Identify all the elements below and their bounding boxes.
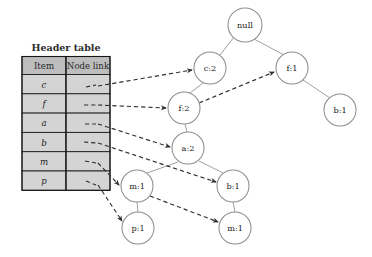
node-label-b1-middle: b:1 [226, 181, 239, 191]
tree-node-m1-right[interactable]: m:1 [219, 212, 251, 244]
node-label-f1: f:1 [287, 63, 298, 73]
header-col-item-label: Item [34, 61, 54, 71]
edge-f2-a2 [185, 124, 187, 132]
row-f-link-cell [66, 94, 110, 113]
node-label-b1-right: b:1 [333, 105, 346, 115]
tree-node-m1-left[interactable]: m:1 [121, 170, 153, 202]
header-table-title: Header table [31, 42, 100, 53]
row-b-item-label: b [41, 138, 47, 148]
fp-tree-diagram: Header table Item Node link c f [0, 0, 372, 257]
node-label-f2: f:2 [179, 103, 190, 113]
row-a-item-label: a [41, 118, 46, 128]
edge-c2-f2 [190, 83, 203, 93]
row-p-item-label: p [41, 176, 47, 186]
tree-node-null[interactable]: null [228, 8, 262, 42]
node-label-m1-right: m:1 [227, 223, 243, 233]
edge-root-c2 [220, 37, 234, 55]
fp-tree-figure: Header table Item Node link c f [0, 0, 372, 257]
node-link-m1l-to-m1r [150, 196, 218, 222]
header-col-node-link-label: Node link [67, 61, 110, 71]
tree-node-f1[interactable]: f:1 [276, 52, 308, 84]
node-link-c-to-c2 [98, 70, 192, 86]
tree-node-b1-right[interactable]: b:1 [324, 94, 356, 126]
node-label-m1-left: m:1 [129, 181, 145, 191]
edge-a2-b1m [199, 161, 223, 173]
tree-node-b1-middle[interactable]: b:1 [217, 170, 249, 202]
edge-f1-b1r [303, 80, 330, 98]
node-label-a2: a:2 [182, 143, 195, 153]
edge-b1m-m1r [233, 202, 235, 212]
node-label-null: null [237, 20, 253, 30]
node-label-p1: p:1 [131, 223, 144, 233]
row-c-link-cell [66, 75, 110, 94]
edge-root-f1 [254, 39, 284, 55]
row-a-link-cell [66, 113, 110, 132]
tree-node-p1[interactable]: p:1 [122, 212, 154, 244]
node-label-c2: c:2 [204, 63, 217, 73]
row-p-link-cell [66, 171, 110, 190]
tree-node-f2[interactable]: f:2 [168, 92, 200, 124]
edge-m1l-p1 [137, 202, 138, 212]
tree-node-a2[interactable]: a:2 [172, 132, 204, 164]
tree-nodes: null c:2 f:1 f:2 b:1 a:2 [121, 8, 356, 244]
row-c-item-label: c [42, 80, 47, 90]
header-table: Header table Item Node link c f [22, 42, 110, 190]
tree-node-c2[interactable]: c:2 [194, 52, 226, 84]
row-m-item-label: m [40, 157, 48, 167]
